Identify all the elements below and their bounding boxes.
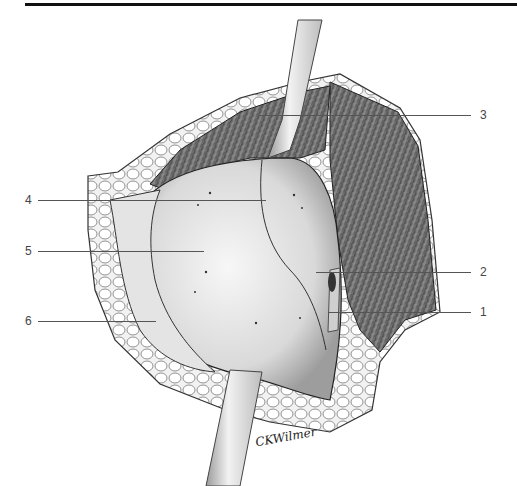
leader-line-1 xyxy=(328,312,471,313)
callout-4: 4 xyxy=(25,194,32,206)
leader-line-4 xyxy=(38,200,266,201)
callout-1: 1 xyxy=(480,306,487,318)
callout-2: 2 xyxy=(480,266,487,278)
leader-line-2 xyxy=(316,272,471,273)
leader-line-3 xyxy=(258,115,471,116)
callout-3: 3 xyxy=(480,109,487,121)
callout-6: 6 xyxy=(25,315,32,327)
vessel-shadow xyxy=(328,272,336,292)
surgical-illustration xyxy=(0,0,517,486)
leader-line-6 xyxy=(38,321,156,322)
callout-5: 5 xyxy=(25,245,32,257)
leader-line-5 xyxy=(38,251,204,252)
